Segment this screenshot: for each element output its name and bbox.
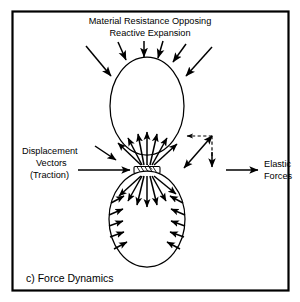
right-label-line2: Forces xyxy=(264,171,292,181)
force-dynamics-diagram: Material Resistance Opposing Reactive Ex… xyxy=(0,0,300,302)
left-label-line3: (Traction) xyxy=(30,170,69,180)
figure-caption: c) Force Dynamics xyxy=(26,272,114,284)
left-label-line2: Vectors xyxy=(36,158,67,168)
right-label-line1: Elastic xyxy=(264,159,291,169)
figure-root: Material Resistance Opposing Reactive Ex… xyxy=(0,0,300,302)
top-label-line1: Material Resistance Opposing xyxy=(89,16,212,26)
left-label-line1: Displacement xyxy=(22,146,78,156)
top-label-line2: Reactive Expansion xyxy=(109,28,190,38)
